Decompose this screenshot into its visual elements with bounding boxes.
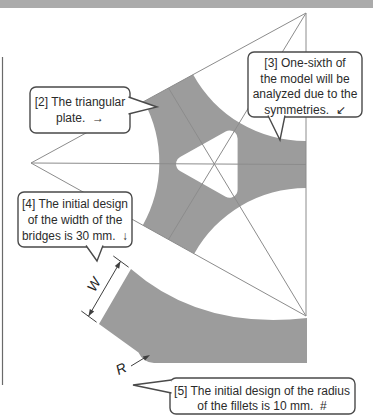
callout-3-line-1: [3] One-sixth of: [264, 56, 346, 70]
callout-5-line-2: of the fillets is 10 mm. #: [197, 399, 327, 413]
callout-box-2: [30, 87, 130, 133]
callout-3-line-4: symmetries. ↙: [264, 103, 345, 117]
callout-4-line-1: [4] The initial design: [22, 197, 128, 211]
callout-4-line-2: of the width of the: [28, 213, 123, 227]
callout-3-line-3: analyzed due to the: [253, 87, 358, 101]
callout-5-line-1: [5] The initial design of the radius: [174, 384, 350, 398]
top-divider-bar: [0, 0, 373, 8]
figure-triangular-plate: W R [2] The triangular plate. → [3] One-…: [0, 0, 373, 416]
callout-4-line-3: bridges is 30 mm. ↓: [22, 229, 128, 243]
callout-2-line-1: [2] The triangular: [35, 95, 126, 109]
callout-3-line-2: the model will be: [260, 72, 350, 86]
callout-2-line-2: plate. →: [56, 111, 104, 125]
